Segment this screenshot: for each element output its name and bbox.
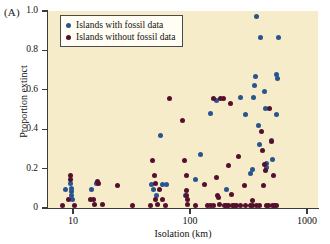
- legend-label-with-fossil: Islands with fossil data: [76, 19, 163, 31]
- data-point: [262, 89, 267, 94]
- data-point: [89, 187, 94, 192]
- y-axis-tick-label: 1.0: [8, 5, 38, 15]
- legend-item: Islands without fossil data: [66, 31, 175, 43]
- data-point: [224, 187, 229, 192]
- data-point: [256, 123, 261, 128]
- data-point: [130, 203, 135, 208]
- data-point: [185, 202, 190, 207]
- x-axis-line: [47, 208, 319, 209]
- y-axis-tick-label: 0: [8, 202, 38, 212]
- data-point: [60, 203, 65, 208]
- x-axis-tick-label: 100: [170, 215, 210, 226]
- data-point: [257, 142, 262, 147]
- data-point: [252, 83, 257, 88]
- legend-label-without-fossil: Islands without fossil data: [76, 31, 175, 43]
- data-point: [91, 197, 96, 202]
- y-axis-tick: [42, 168, 47, 169]
- data-point: [211, 203, 216, 208]
- data-point: [180, 118, 185, 123]
- data-point: [160, 197, 165, 202]
- x-axis-tick-label: 1000: [287, 215, 327, 226]
- data-point: [243, 112, 248, 117]
- data-point: [185, 197, 190, 202]
- data-point: [153, 181, 158, 186]
- data-point: [238, 95, 243, 100]
- y-axis-tick: [42, 10, 47, 11]
- data-point: [267, 106, 272, 111]
- x-axis-tick-label: 10: [53, 215, 93, 226]
- data-point: [193, 203, 198, 208]
- data-point: [262, 162, 267, 167]
- figure-panel: (A) 1.00.80.60.40.20 101001000 Proportio…: [0, 0, 330, 244]
- data-point: [236, 154, 241, 159]
- data-point: [115, 183, 120, 188]
- y-axis-tick: [42, 129, 47, 130]
- data-point: [208, 111, 213, 116]
- data-point: [92, 202, 97, 207]
- data-point: [258, 35, 263, 40]
- data-point: [155, 202, 160, 207]
- data-point: [229, 192, 234, 197]
- y-axis-tick: [42, 207, 47, 208]
- data-point: [211, 96, 216, 101]
- x-axis-label: Isolation (km): [48, 228, 318, 239]
- data-point: [198, 152, 203, 157]
- data-point: [271, 173, 276, 178]
- data-point: [202, 182, 207, 187]
- data-point: [184, 173, 189, 178]
- data-point: [226, 163, 231, 168]
- data-point: [72, 203, 77, 208]
- data-point: [167, 96, 172, 101]
- data-point: [250, 167, 255, 172]
- data-point: [228, 101, 233, 106]
- data-point: [274, 112, 279, 117]
- data-point: [250, 198, 255, 203]
- data-point: [96, 181, 101, 186]
- data-point: [150, 158, 155, 163]
- data-point: [163, 203, 168, 208]
- data-point: [238, 203, 243, 208]
- data-point: [151, 187, 156, 192]
- data-point: [270, 157, 275, 162]
- data-point: [253, 74, 258, 79]
- data-point: [257, 203, 262, 208]
- data-point: [100, 202, 105, 207]
- data-point: [275, 76, 280, 81]
- data-point: [193, 177, 198, 182]
- legend-item: Islands with fossil data: [66, 19, 175, 31]
- data-point: [261, 183, 266, 188]
- data-point: [242, 183, 247, 188]
- data-point: [274, 203, 279, 208]
- data-point: [158, 133, 163, 138]
- y-axis-tick: [42, 50, 47, 51]
- legend: Islands with fossil data Islands without…: [60, 15, 183, 47]
- data-point: [251, 95, 256, 100]
- data-point: [66, 197, 71, 202]
- data-point: [221, 96, 226, 101]
- data-point: [157, 187, 162, 192]
- data-point: [148, 203, 153, 208]
- data-point: [182, 158, 187, 163]
- data-point: [260, 148, 265, 153]
- x-axis-tick: [189, 209, 190, 214]
- data-point: [269, 139, 274, 144]
- data-point: [276, 35, 281, 40]
- data-point: [63, 187, 68, 192]
- x-axis-tick: [72, 209, 73, 214]
- data-point: [164, 182, 169, 187]
- data-point: [216, 195, 221, 200]
- legend-swatch-without-fossil-icon: [66, 35, 71, 40]
- y-axis-label: Proportion extinct: [18, 27, 29, 177]
- data-point: [68, 177, 73, 182]
- data-point: [254, 14, 259, 19]
- x-axis-tick: [306, 209, 307, 214]
- data-point: [214, 175, 219, 180]
- data-point: [263, 168, 268, 173]
- y-axis-line: [47, 10, 48, 209]
- data-point: [152, 173, 157, 178]
- legend-swatch-with-fossil-icon: [66, 23, 71, 28]
- data-point: [259, 129, 264, 134]
- data-point: [153, 197, 158, 202]
- y-axis-tick: [42, 89, 47, 90]
